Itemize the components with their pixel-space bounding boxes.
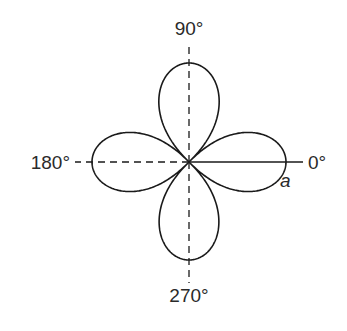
polar-rose-diagram: 90° 180° 0° 270° a (0, 0, 347, 331)
label-0-deg: 0° (308, 152, 326, 173)
label-90-deg: 90° (175, 18, 204, 39)
label-270-deg: 270° (169, 285, 208, 306)
label-180-deg: 180° (31, 152, 70, 173)
amplitude-label: a (280, 170, 291, 191)
